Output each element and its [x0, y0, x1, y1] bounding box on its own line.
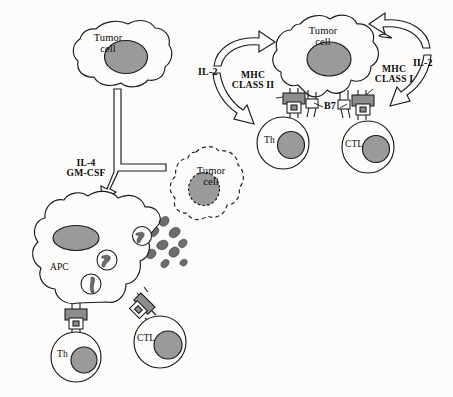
tumor-cell-top-right-label: Tumor cell — [300, 26, 346, 48]
mhc-class-ii-label: MHC CLASS II — [228, 70, 278, 91]
receptor-core — [73, 321, 79, 326]
receptor-core — [360, 107, 366, 112]
tumor-cell-dashed-label: Tumor cell — [188, 166, 234, 188]
apc-label: APC — [50, 263, 69, 273]
ctl-bottom-nucleus — [154, 331, 182, 359]
immunology-diagram: Tumor cell Tumor cell Tumor cell IL-4 GM… — [0, 0, 453, 397]
b7-ligand-right — [338, 90, 350, 118]
il2-label-left: IL-2 — [198, 67, 218, 77]
tumor-cell-top-left-label: Tumor cell — [85, 33, 131, 55]
antigen-fragment — [157, 240, 168, 249]
ctl-top-label: CTL — [345, 140, 363, 150]
il2-arrow-right-upper — [369, 13, 430, 48]
receptor-complex-apc-th — [65, 303, 87, 334]
th-bottom-nucleus — [71, 347, 97, 373]
b7-block-right — [338, 100, 350, 109]
mhc-ii-leader — [276, 97, 283, 98]
antigen-fragment — [169, 228, 180, 238]
ctl-bottom-label: CTL — [137, 334, 155, 344]
cytokine-arrow — [101, 89, 166, 203]
diagram-canvas — [0, 0, 453, 397]
receptor-foot — [290, 113, 298, 118]
cytokine-arrow-shape — [101, 89, 166, 203]
mhc-i-leader — [366, 89, 373, 95]
th-bottom-label: Th — [57, 350, 68, 360]
b7-label: B7 — [324, 101, 336, 111]
mhc-class-i-label: MHC CLASS I — [370, 64, 418, 85]
receptor-foot — [358, 115, 366, 120]
b7-foot-right — [341, 109, 350, 118]
antigen-fragment — [180, 259, 187, 266]
antigen-fragment — [169, 247, 179, 257]
apc-nucleus — [53, 226, 99, 251]
antigen-fragment — [161, 260, 169, 268]
cytokine-label: IL-4 GM-CSF — [54, 158, 118, 179]
antigen-fragment — [179, 239, 188, 247]
receptor-complex-mhc-ii — [283, 88, 305, 118]
apc-cell — [33, 191, 160, 303]
th-top-nucleus — [278, 132, 305, 159]
th-top-label: Th — [264, 136, 275, 146]
receptor-core — [291, 105, 297, 110]
b7-foot-left — [307, 108, 316, 117]
ctl-top-nucleus — [363, 136, 390, 163]
receptor-complex-mhc-i — [352, 90, 374, 120]
